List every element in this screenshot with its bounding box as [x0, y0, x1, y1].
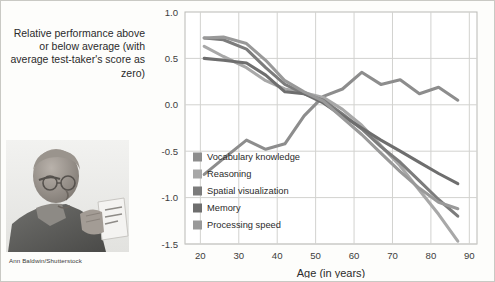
legend-swatch-2 [193, 187, 202, 196]
x-tick-label: 40 [272, 250, 283, 261]
figure-container: Relative performance above or below aver… [0, 0, 495, 282]
y-tick-label: 0.0 [165, 99, 178, 110]
legend-swatch-0 [193, 153, 202, 162]
y-tick-label: -1.5 [161, 239, 178, 250]
legend-swatch-4 [193, 221, 202, 230]
legend-swatch-1 [193, 170, 202, 179]
y-tick-label: 1.0 [165, 7, 178, 18]
x-tick-label: 50 [310, 250, 321, 261]
line-chart: 1.00.50.0-0.5-1.0-1.52030405060708090Age… [151, 6, 491, 278]
legend-label-4: Processing speed [207, 220, 281, 230]
x-axis-title: Age (in years) [297, 267, 365, 278]
x-tick-label: 30 [233, 250, 244, 261]
legend-label-3: Memory [207, 203, 241, 213]
x-tick-label: 70 [387, 250, 398, 261]
x-tick-label: 20 [195, 250, 206, 261]
y-axis-caption: Relative performance above or below aver… [9, 27, 145, 80]
x-tick-label: 90 [464, 250, 475, 261]
legend-label-1: Reasoning [207, 169, 251, 179]
legend-swatch-3 [193, 204, 202, 213]
photo-elderly-man [6, 140, 129, 252]
photo-credit: Ann Baldwin/Shutterstock [9, 257, 82, 264]
legend-label-2: Spatial visualization [207, 186, 289, 196]
x-tick-label: 80 [426, 250, 437, 261]
photo-image [6, 140, 129, 252]
x-tick-label: 60 [349, 250, 360, 261]
y-tick-label: -0.5 [161, 146, 178, 157]
y-tick-label: 0.5 [165, 53, 178, 64]
y-tick-label: -1.0 [161, 192, 178, 203]
legend-label-0: Vocabulary knowledge [207, 152, 300, 162]
